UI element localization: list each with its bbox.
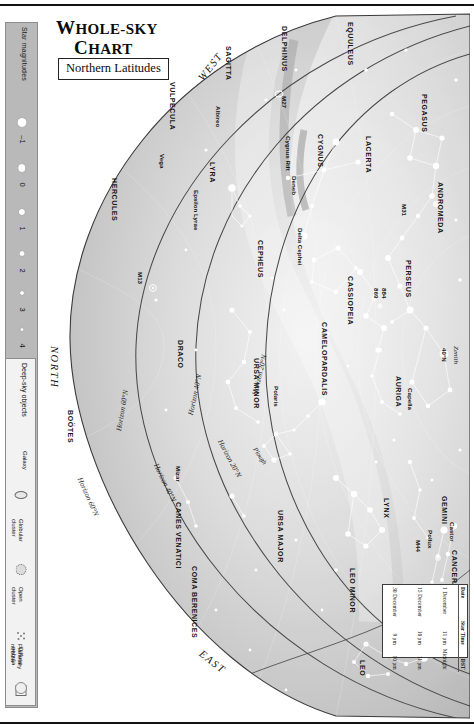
cell-startime-3: 9 pm: [383, 619, 408, 647]
magnitude-dot-1: [18, 209, 24, 215]
magnitude-dot-2: [19, 251, 24, 256]
constellation-hercules: HERCULES: [111, 178, 118, 221]
star-capella: Capella: [407, 388, 414, 410]
magnitude-value-2: 2: [17, 268, 26, 272]
constellation-cygnus: CYGNUS: [317, 134, 324, 168]
table-row: 15 December 10 pm 11 pm: [408, 585, 433, 672]
dso-884: 884: [381, 288, 388, 298]
magnitude-dot-3: [20, 291, 24, 295]
deepsky-label: Deep-sky objects: [21, 363, 28, 417]
magnitude-value-0: 0: [17, 182, 26, 186]
title-line-1: WHOLE-SKY: [50, 18, 220, 38]
constellation-lacerta: LACERTA: [365, 136, 372, 173]
ellipse-icon: [14, 491, 27, 499]
cell-dst-1: Midnight: [432, 647, 458, 672]
magnitude-value-4: 4: [17, 343, 26, 347]
constellation-cancer: CANCER: [451, 550, 458, 584]
star-castor: Castor: [449, 522, 456, 542]
magnitude-value-1: 1: [17, 226, 26, 230]
subtitle-box: Northern Latitudes: [58, 58, 169, 80]
zenith-latitude: 40°N: [441, 348, 448, 362]
dso-m13: M13: [137, 272, 144, 284]
constellation-cepheus: CEPHEUS: [257, 240, 264, 278]
constellation-draco: DRACO: [177, 340, 184, 369]
deepsky-item-galaxy-label: Galaxy: [21, 451, 28, 470]
constellation-delphinus: DELPHINUS: [281, 26, 288, 72]
cell-startime-1: 11 pm: [432, 619, 458, 647]
constellation-gemini: GEMINI: [441, 496, 448, 525]
constellation-camelopardalis: CAMELOPARDALIS: [321, 322, 328, 396]
magnitudes-label: Star magnitudes: [21, 27, 28, 81]
cell-startime-2: 10 pm: [408, 619, 433, 647]
magnitude-dot-0: [18, 164, 26, 172]
deepsky-item-open-label: Open cluster: [10, 587, 24, 605]
cell-date-3: 30 December: [383, 585, 408, 619]
constellation-ursa-minor: URSA MINOR: [253, 358, 260, 409]
col-dst: DST: [459, 647, 468, 672]
constellation-ursa-major: URSA MAJOR: [277, 510, 284, 563]
table-row: 1 December 11 pm Midnight: [432, 585, 458, 672]
constellation-sagitta: SAGITTA: [225, 46, 232, 80]
star-chart-page: WEST NORTH EAST Horizon 20°N Horizon 40°…: [0, 0, 474, 728]
ring-nebula-icon: [15, 682, 27, 694]
open-cluster-icon: [16, 627, 26, 637]
cell-date-1: 1 December: [432, 585, 458, 619]
constellation-cassiopeia: CASSIOPEIA: [347, 276, 354, 325]
cardinal-north: NORTH: [49, 346, 60, 388]
star-mizar: Mizar: [175, 466, 182, 482]
title-line-2: CHART: [50, 38, 220, 58]
star-pollux: Pollux: [427, 530, 434, 549]
star-delta-cephei: Delta Cephei: [297, 228, 304, 265]
deepsky-item-globular-label: Globular cluster: [10, 519, 24, 542]
constellation-equuleus: EQUULEUS: [347, 22, 354, 66]
table-header-row: Date Star Time DST: [459, 585, 468, 672]
feature-cygnus-rift: Cygnus Rift: [285, 136, 292, 171]
star-vega: Vega: [159, 154, 166, 168]
constellation-bootes: BOÖTES: [67, 410, 74, 443]
constellation-pegasus: PEGASUS: [421, 94, 428, 132]
constellation-auriga: AURIGA: [395, 376, 402, 407]
constellation-perseus: PERSEUS: [405, 260, 412, 298]
col-star-time: Star Time: [459, 619, 468, 647]
constellation-lynx: LYNX: [383, 498, 390, 518]
dso-m44: M44: [415, 540, 422, 552]
deepsky-item-planetary-label: Planetary nebula: [9, 644, 23, 669]
magnitude-dot--1: [17, 118, 26, 127]
constellation-canes-venatici: CANES VENATICI: [175, 502, 182, 569]
constellation-leo: LEO: [359, 660, 366, 676]
dso-869: 869: [373, 288, 380, 298]
cell-dst-3: 10 pm: [383, 647, 408, 672]
table-row: 30 December 9 pm 10 pm: [383, 585, 408, 672]
date-time-table: Date Star Time DST 1 December 11 pm Midn…: [382, 584, 468, 658]
constellation-andromeda: ANDROMEDA: [437, 182, 444, 234]
star-polaris: Polaris: [273, 386, 280, 407]
magnitude-value--1: –1: [17, 135, 26, 143]
constellation-coma-berenices: COMA BERENICES: [191, 566, 198, 638]
star-deneb: Deneb: [291, 176, 298, 195]
dso-m27: M27: [281, 96, 288, 108]
constellation-vulpecula: VULPECULA: [169, 82, 176, 130]
constellation-leo-minor: LEO MINOR: [349, 568, 356, 613]
star-epsilon-lyrae: Epsilon Lyrae: [193, 190, 200, 230]
col-date: Date: [459, 585, 468, 619]
cell-dst-2: 11 pm: [408, 647, 433, 672]
top-rule: [0, 4, 474, 6]
star-albireo: Albireo: [215, 106, 222, 127]
magnitude-value-3: 3: [17, 307, 26, 311]
page-title: WHOLE-SKY CHART: [50, 18, 220, 58]
magnitude-dot-4: [20, 328, 23, 331]
dso-m31: M31: [401, 204, 408, 216]
cell-date-2: 15 December: [408, 585, 433, 619]
zenith-label: Zenith: [452, 346, 460, 364]
deepsky-item-planetary: Planetary nebula: [5, 642, 36, 706]
globular-cluster-icon: [15, 564, 26, 575]
bottom-rule: [0, 722, 474, 724]
constellation-lyra: LYRA: [209, 162, 216, 183]
